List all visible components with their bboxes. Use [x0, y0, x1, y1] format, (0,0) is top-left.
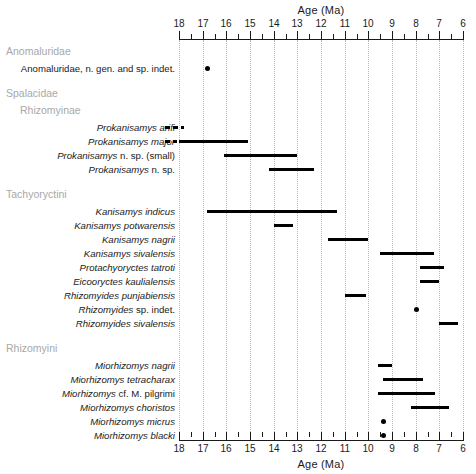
taxon-label-miorhizomys-cf-m-pilgrimi: Miorhizomys cf. M. pilgrimi: [62, 388, 175, 399]
tick-bottom-minor-7.5ma: [428, 432, 429, 437]
gridline-6ma: [463, 40, 464, 432]
range-point-miorhizomys-blacki: [381, 433, 386, 438]
gridline-14ma: [274, 40, 275, 432]
gridline-9ma: [392, 40, 393, 432]
tick-label-bottom-9ma: 9: [389, 443, 395, 454]
taxon-label-miorhizomys-tetracharax: Miorhizomys tetracharax: [71, 374, 176, 385]
tick-label-top-14ma: 14: [268, 18, 279, 29]
group-heading-rhizomyini: Rhizomyini: [6, 342, 57, 354]
group-heading-spalacidae: Spalacidae: [6, 87, 58, 99]
tick-top-minor-7.5ma: [428, 34, 429, 39]
tick-label-bottom-11ma: 11: [340, 443, 350, 454]
tick-bottom-7ma: [439, 432, 440, 440]
tick-label-top-16ma: 16: [220, 18, 231, 29]
taxon-label-rhizomyides-sivalensis: Rhizomyides sivalensis: [76, 318, 175, 329]
tick-top-minor-6.5ma: [451, 34, 452, 39]
tick-label-top-9ma: 9: [389, 18, 395, 29]
tick-bottom-9ma: [392, 432, 393, 440]
tick-label-bottom-10ma: 10: [362, 443, 373, 454]
taxon-label-prokanisamys-arifi: Prokanisamys arifi: [97, 122, 175, 133]
taxon-label-rhizomyides-punjabiensis: Rhizomyides punjabiensis: [64, 290, 175, 301]
tick-label-bottom-6ma: 6: [460, 443, 466, 454]
range-bar-miorhizomys-choristos: [411, 406, 449, 409]
range-bar-kanisamys-sivalensis: [380, 252, 434, 255]
range-point-miorhizomys-micrus: [381, 419, 386, 424]
tick-top-minor-17.5ma: [191, 34, 192, 39]
gridline-17ma: [203, 40, 204, 432]
gridline-16ma: [226, 40, 227, 432]
range-chart: Age (Ma) Age (Ma) 1818171716161515141413…: [0, 0, 476, 474]
tick-top-16ma: [226, 31, 227, 39]
range-bar-prokanisamys-n-sp: [269, 168, 314, 171]
tick-top-17ma: [203, 31, 204, 39]
gridline-8ma: [416, 40, 417, 432]
tick-bottom-minor-17.5ma: [191, 432, 192, 437]
tick-label-bottom-17ma: 17: [197, 443, 208, 454]
tick-bottom-11ma: [345, 432, 346, 440]
gridline-18ma: [179, 40, 180, 432]
group-heading-rhizomyinae: Rhizomyinae: [20, 104, 81, 116]
taxon-label-kanisamys-indicus: Kanisamys indicus: [96, 206, 175, 217]
tick-bottom-16ma: [226, 432, 227, 440]
tick-top-13ma: [297, 31, 298, 39]
range-bar-miorhizomys-tetracharax: [383, 378, 423, 381]
tick-top-7ma: [439, 31, 440, 39]
taxon-label-prokanisamys-n-sp: Prokanisamys n. sp.: [89, 164, 175, 175]
taxon-label-eicooryctes-kaulialensis: Eicooryctes kaulialensis: [73, 276, 175, 287]
tick-top-minor-14.5ma: [262, 34, 263, 39]
range-bar-kanisamys-nagrii: [328, 238, 368, 241]
taxon-label-kanisamys-nagrii: Kanisamys nagrii: [102, 234, 175, 245]
tick-top-15ma: [250, 31, 251, 39]
tick-label-bottom-14ma: 14: [268, 443, 279, 454]
tick-label-top-13ma: 13: [291, 18, 302, 29]
tick-bottom-8ma: [416, 432, 417, 440]
tick-bottom-12ma: [321, 432, 322, 440]
range-point-rhizomyides-sp-indet: [414, 307, 419, 312]
tick-label-top-10ma: 10: [362, 18, 373, 29]
tick-top-minor-11.5ma: [333, 34, 334, 39]
tick-top-minor-10.5ma: [357, 34, 358, 39]
group-heading-anomaluridae: Anomaluridae: [6, 45, 71, 57]
tick-top-minor-13.5ma: [286, 34, 287, 39]
taxon-label-kanisamys-potwarensis: Kanisamys potwarensis: [74, 220, 175, 231]
tick-top-8ma: [416, 31, 417, 39]
tick-label-top-18ma: 18: [173, 18, 184, 29]
tick-bottom-10ma: [368, 432, 369, 440]
range-bar-miorhizomys-cf-m-pilgrimi: [378, 392, 435, 395]
gridline-10ma: [368, 40, 369, 432]
tick-bottom-15ma: [250, 432, 251, 440]
tick-bottom-minor-8.5ma: [404, 432, 405, 437]
tick-label-bottom-12ma: 12: [315, 443, 326, 454]
tick-top-12ma: [321, 31, 322, 39]
taxon-label-anomaluridae-n-gen-and-sp-indet: Anomaluridae, n. gen. and sp. indet.: [21, 63, 175, 74]
taxon-label-rhizomyides-sp-indet: Rhizomyides sp. indet.: [78, 304, 175, 315]
tick-label-top-17ma: 17: [197, 18, 208, 29]
taxon-label-miorhizomys-blacki: Miorhizomys blacki: [94, 430, 175, 441]
taxon-label-miorhizomys-choristos: Miorhizomys choristos: [80, 402, 175, 413]
tick-bottom-minor-13.5ma: [286, 432, 287, 437]
tick-top-minor-12.5ma: [309, 34, 310, 39]
tick-bottom-13ma: [297, 432, 298, 440]
tick-bottom-minor-16.5ma: [215, 432, 216, 437]
taxon-label-miorhizomys-micrus: Miorhizomys micrus: [90, 416, 175, 427]
gridline-12ma: [321, 40, 322, 432]
range-point-anomaluridae-n-gen-and-sp-indet: [205, 66, 210, 71]
tick-label-bottom-16ma: 16: [220, 443, 231, 454]
tick-top-6ma: [463, 31, 464, 39]
tick-bottom-minor-15.5ma: [238, 432, 239, 437]
tick-top-minor-8.5ma: [404, 34, 405, 39]
tick-label-bottom-7ma: 7: [436, 443, 442, 454]
tick-bottom-minor-12.5ma: [309, 432, 310, 437]
range-bar-kanisamys-indicus: [207, 210, 337, 213]
tick-top-18ma: [179, 31, 180, 39]
range-bar-kanisamys-potwarensis: [274, 224, 293, 227]
gridline-13ma: [297, 40, 298, 432]
range-dashed-prokanisamys-arifi: [165, 126, 184, 129]
range-bar-prokanisamys-n-sp-small: [224, 154, 297, 157]
tick-bottom-minor-6.5ma: [451, 432, 452, 437]
tick-top-minor-15.5ma: [238, 34, 239, 39]
axis-title-top: Age (Ma): [179, 4, 463, 16]
tick-top-14ma: [274, 31, 275, 39]
tick-bottom-minor-10.5ma: [357, 432, 358, 437]
tick-label-bottom-13ma: 13: [291, 443, 302, 454]
